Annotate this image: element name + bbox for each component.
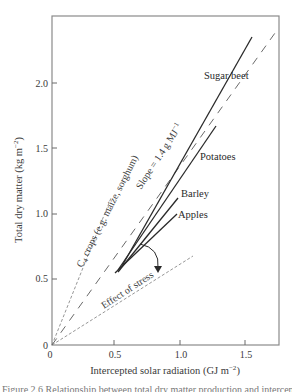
y-tick-1.0: 1.0 bbox=[36, 208, 49, 219]
label-slope: Slope = 1.4 g MJ−1 bbox=[133, 120, 185, 191]
plot-frame bbox=[52, 16, 279, 345]
x-tick-1.5: 1.5 bbox=[240, 349, 253, 360]
y-axis-tick-labels: 0 0.5 1.0 1.5 2.0 bbox=[36, 78, 49, 351]
y-tick-0.5: 0.5 bbox=[36, 273, 49, 284]
x-tick-1.0: 1.0 bbox=[175, 349, 188, 360]
x-axis-title: Intercepted solar radiation (GJ m−2) bbox=[90, 364, 240, 377]
y-axis-ticks bbox=[52, 83, 57, 279]
y-tick-1.5: 1.5 bbox=[36, 143, 49, 154]
label-potatoes: Potatoes bbox=[200, 151, 236, 162]
label-apples: Apples bbox=[178, 209, 208, 220]
label-effect-of-stress: Effect of stress bbox=[99, 269, 155, 311]
label-barley: Barley bbox=[181, 188, 210, 199]
x-axis-ticks bbox=[114, 340, 245, 345]
stress-arrow bbox=[140, 244, 158, 268]
label-sugar-beet: Sugar beet bbox=[204, 70, 249, 81]
y-tick-2.0: 2.0 bbox=[36, 78, 49, 89]
label-c4-crops: C4 crops (e.g. maize, sorghum) bbox=[74, 153, 142, 269]
x-tick-0: 0 bbox=[48, 349, 53, 360]
x-tick-0.5: 0.5 bbox=[109, 349, 122, 360]
y-axis-title: Total dry matter (kg m−2) bbox=[12, 137, 25, 243]
x-axis-tick-labels: 0 0.5 1.0 1.5 bbox=[48, 349, 253, 360]
stress-arrowhead-icon bbox=[154, 266, 162, 273]
stress-line bbox=[52, 256, 193, 345]
figure-caption: Figure 2.6 Relationship between total dr… bbox=[2, 384, 292, 392]
